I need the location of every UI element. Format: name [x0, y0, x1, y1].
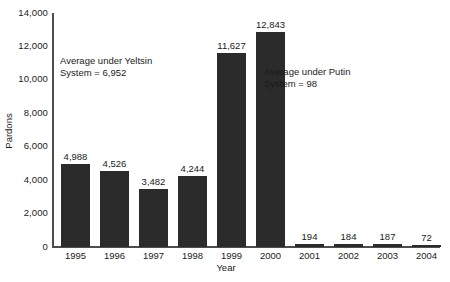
bar-1995[interactable]: [61, 164, 90, 247]
x-axis-tick-labels: 1995 1996 1997 1998 1999 2000 2001 2002 …: [52, 250, 440, 264]
bars-layer: 4,988 4,526 3,482 4,244 11,627 12,843 19…: [52, 13, 440, 247]
bar-value-label: 4,244: [170, 164, 215, 174]
bar-2004[interactable]: [412, 245, 441, 247]
y-tick-label: 10,000: [0, 74, 48, 84]
y-tick-label: 14,000: [0, 8, 48, 18]
bar-2003[interactable]: [373, 244, 402, 247]
bar-1997[interactable]: [139, 189, 168, 247]
bar-value-label: 3,482: [131, 177, 176, 187]
bar-value-label: 42: [443, 233, 450, 243]
annotation-putin-average: Average under Putin System = 98: [264, 66, 350, 89]
pardons-bar-chart: 14,000 12,000 10,000 8,000 6,000 4,000 2…: [0, 0, 450, 282]
bar-value-label: 11,627: [209, 41, 254, 51]
bar-2000[interactable]: [256, 32, 285, 247]
bar-value-label: 4,526: [92, 159, 137, 169]
y-tick-label: 12,000: [0, 41, 48, 51]
x-axis-title: Year: [196, 263, 256, 273]
y-axis-title: Pardons: [4, 103, 14, 159]
bar-1996[interactable]: [100, 171, 129, 247]
y-tick-label: 4,000: [0, 175, 48, 185]
bar-2002[interactable]: [334, 244, 363, 247]
bar-1998[interactable]: [178, 176, 207, 247]
bar-value-label: 12,843: [248, 20, 293, 30]
annotation-yeltsin-average: Average under Yeltsin System = 6,952: [60, 55, 152, 78]
bar-1999[interactable]: [217, 53, 246, 247]
bar-2001[interactable]: [295, 244, 324, 247]
x-tick-label: 2005: [443, 250, 450, 261]
y-tick-label: 2,000: [0, 208, 48, 218]
y-tick-label: 0: [0, 242, 48, 252]
